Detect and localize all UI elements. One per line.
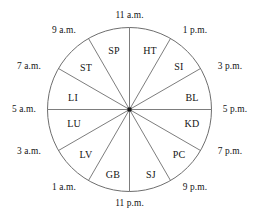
organ-label-pc: PC [173, 150, 186, 160]
time-label-1pm: 1 p.m. [183, 26, 207, 35]
spoke-3am-line [58, 110, 129, 151]
time-label-9am: 9 a.m. [52, 26, 76, 35]
time-label-7am: 7 a.m. [17, 62, 41, 71]
organ-label-si: SI [174, 62, 183, 72]
spoke-3pm-line [130, 69, 201, 110]
clock-center-hub [128, 108, 132, 112]
spoke-7am-line [58, 69, 129, 110]
organ-label-bl: BL [185, 93, 198, 103]
spoke-7pm-line [130, 110, 201, 151]
organ-label-kd: KD [185, 119, 200, 129]
organ-label-sj: SJ [146, 170, 156, 180]
organ-label-sp: SP [108, 46, 120, 56]
organ-clock-figure: 11 a.m.1 p.m.3 p.m.5 p.m.7 p.m.9 p.m.11 … [0, 0, 259, 221]
time-label-3pm: 3 p.m. [218, 62, 242, 71]
organ-label-gb: GB [106, 170, 120, 180]
time-label-11pm: 11 p.m. [115, 199, 144, 208]
time-label-5pm: 5 p.m. [223, 105, 247, 114]
organ-label-ht: HT [143, 46, 157, 56]
time-label-7pm: 7 p.m. [218, 147, 242, 156]
time-label-11am: 11 a.m. [115, 11, 143, 20]
time-label-5am: 5 a.m. [12, 105, 36, 114]
time-label-3am: 3 a.m. [17, 147, 41, 156]
organ-label-st: ST [80, 63, 92, 73]
clock-diagram-svg [0, 0, 259, 221]
organ-label-lu: LU [67, 119, 81, 129]
time-label-1am: 1 a.m. [52, 183, 76, 192]
time-label-9pm: 9 p.m. [183, 183, 207, 192]
organ-label-li: LI [68, 93, 78, 103]
organ-label-lv: LV [80, 150, 93, 160]
